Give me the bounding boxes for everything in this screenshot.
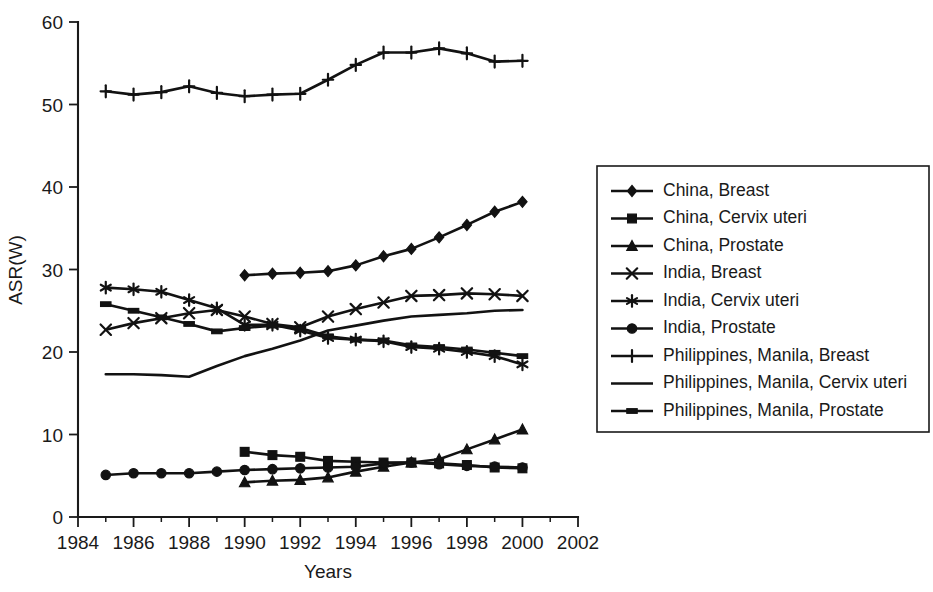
y-tick-label: 40 <box>42 177 63 198</box>
y-tick-label: 20 <box>42 342 63 363</box>
y-tick-label: 50 <box>42 95 63 116</box>
series-6 <box>101 42 528 102</box>
series-3 <box>101 288 528 335</box>
legend-label: India, Prostate <box>663 317 776 337</box>
chart-legend: China, BreastChina, Cervix uteriChina, P… <box>597 166 929 432</box>
legend-label: China, Prostate <box>663 235 784 255</box>
x-axis-title: Years <box>304 561 352 582</box>
chart-figure: 0102030405060 19841986198819901992199419… <box>0 0 933 592</box>
legend-label: China, Cervix uteri <box>663 207 807 227</box>
y-axis: 0102030405060 <box>42 12 78 528</box>
series-8 <box>101 302 528 359</box>
legend-label: Philippines, Manila, Cervix uteri <box>663 372 907 392</box>
series-4 <box>101 282 528 370</box>
legend-label: Philippines, Manila, Breast <box>663 345 869 365</box>
x-tick-label: 1994 <box>335 532 378 553</box>
legend-label: India, Cervix uteri <box>663 290 799 310</box>
x-tick-label: 1986 <box>112 532 154 553</box>
x-tick-label: 2000 <box>501 532 543 553</box>
y-axis-title: ASR(W) <box>5 235 26 305</box>
x-axis: 1984198619881990199219941996199820002002 <box>57 517 599 553</box>
series-layer <box>101 42 528 486</box>
y-tick-label: 0 <box>52 507 63 528</box>
y-tick-label: 60 <box>42 12 63 33</box>
x-tick-label: 1992 <box>279 532 321 553</box>
x-tick-label: 2002 <box>557 532 599 553</box>
x-tick-label: 1984 <box>57 532 100 553</box>
y-tick-label: 10 <box>42 425 63 446</box>
asr-line-chart: 0102030405060 19841986198819901992199419… <box>0 0 933 592</box>
x-tick-label: 1998 <box>446 532 488 553</box>
x-tick-label: 1988 <box>168 532 210 553</box>
series-0 <box>240 196 527 280</box>
y-tick-label: 30 <box>42 260 63 281</box>
x-tick-label: 1996 <box>390 532 432 553</box>
legend-label: China, Breast <box>663 180 769 200</box>
x-tick-label: 1990 <box>224 532 266 553</box>
legend-label: India, Breast <box>663 262 761 282</box>
legend-label: Philippines, Manila, Prostate <box>663 400 884 420</box>
